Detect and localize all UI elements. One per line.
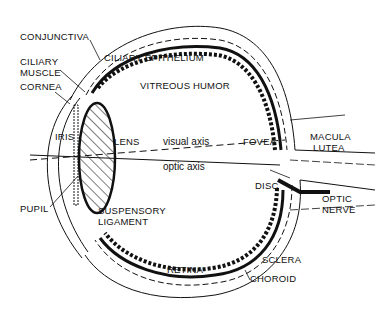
label-lens: LENS	[114, 136, 140, 147]
label-optic-axis: optic axis	[163, 161, 205, 172]
label-pupil: PUPIL	[20, 203, 48, 214]
label-suspensory-ligament-2: LIGAMENT	[98, 216, 148, 227]
label-ciliary-muscle-2: MUSCLE	[20, 67, 61, 78]
optic-nerve	[278, 180, 330, 192]
label-iris: IRIS	[55, 131, 74, 142]
label-ciliary-epithelium: CILIARY EPITHELIUM	[104, 52, 204, 63]
label-cornea: CORNEA	[20, 81, 62, 92]
label-vitreous-humor: VITREOUS HUMOR	[140, 80, 230, 91]
label-ciliary-muscle-1: CILIARY	[20, 56, 58, 67]
label-macula-lutea-1: MACULA	[310, 131, 351, 142]
label-choroid: CHOROID	[250, 273, 296, 284]
label-conjunctiva: CONJUNCTIVA	[20, 31, 89, 42]
label-optic-nerve-2: NERVE	[322, 204, 356, 215]
label-optic-nerve-1: OPTIC	[322, 193, 352, 204]
label-visual-axis: visual axis	[163, 136, 209, 147]
label-macula-lutea-2: LUTEA	[313, 142, 345, 153]
label-retina: RETINA	[167, 264, 203, 275]
iris	[74, 105, 78, 205]
label-disc: DISC	[255, 180, 279, 191]
label-sclera: SCLERA	[262, 254, 301, 265]
label-fovea: FOVEA	[243, 136, 276, 147]
label-suspensory-ligament-1: SUSPENSORY	[98, 205, 166, 216]
optic-axis-line	[30, 155, 280, 165]
